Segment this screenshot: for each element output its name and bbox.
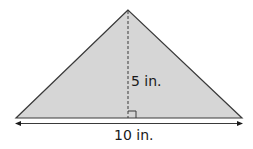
triangle: [16, 10, 242, 118]
left-arrowhead-icon: [15, 121, 21, 126]
height-label: 5 in.: [131, 73, 162, 89]
right-arrowhead-icon: [237, 121, 243, 126]
base-label: 10 in.: [114, 127, 153, 143]
triangle-diagram: 5 in. 10 in.: [0, 0, 253, 149]
